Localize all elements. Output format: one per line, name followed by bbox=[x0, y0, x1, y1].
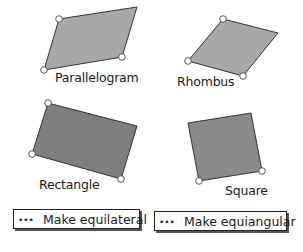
rhombus-label: Rhombus bbox=[177, 74, 234, 89]
rhombus-shape[interactable] bbox=[185, 16, 278, 80]
parallelogram-shape[interactable] bbox=[41, 7, 137, 73]
vertex-handle[interactable] bbox=[196, 178, 203, 185]
rectangle-shape[interactable] bbox=[29, 100, 137, 183]
vertex-handle[interactable] bbox=[118, 176, 125, 183]
make-equilateral-button[interactable]: ••• Make equilateral bbox=[13, 209, 140, 229]
square-label: Square bbox=[225, 183, 268, 198]
dots-icon: ••• bbox=[159, 217, 175, 227]
dots-icon: ••• bbox=[18, 215, 34, 225]
vertex-handle[interactable] bbox=[259, 168, 266, 175]
vertex-handle[interactable] bbox=[185, 58, 192, 65]
make-equilateral-label: Make equilateral bbox=[43, 212, 147, 227]
vertex-handle[interactable] bbox=[240, 73, 247, 80]
rectangle-label: Rectangle bbox=[39, 177, 99, 192]
vertex-handle[interactable] bbox=[45, 100, 52, 107]
parallelogram-label: Parallelogram bbox=[55, 70, 139, 85]
make-equiangular-label: Make equiangular bbox=[184, 214, 296, 229]
square-body[interactable] bbox=[188, 113, 262, 181]
square-shape[interactable] bbox=[188, 113, 265, 184]
rhombus-body[interactable] bbox=[188, 19, 278, 76]
make-equiangular-button[interactable]: ••• Make equiangular bbox=[154, 211, 287, 231]
vertex-handle[interactable] bbox=[41, 67, 48, 74]
rectangle-body[interactable] bbox=[32, 103, 137, 179]
vertex-handle[interactable] bbox=[220, 16, 227, 23]
vertex-handle[interactable] bbox=[56, 16, 63, 23]
vertex-handle[interactable] bbox=[29, 151, 36, 158]
vertex-handle[interactable] bbox=[119, 54, 126, 61]
